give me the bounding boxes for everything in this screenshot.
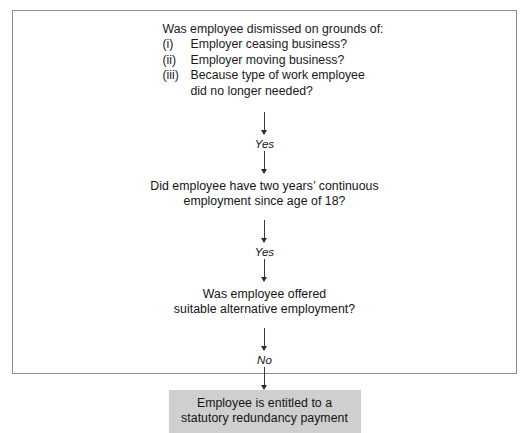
result-line-1: Employee is entitled to a [173,396,357,411]
flowchart-stack: Was employee dismissed on grounds of: (i… [13,11,516,373]
arrow-down-icon [260,328,269,351]
arrow-down-icon [260,112,269,135]
arrow-down-icon [260,151,269,174]
question-node-2: Did employee have two years’ continuous … [150,179,378,210]
result-line-2: statutory redundancy payment [173,411,357,426]
question-3-line-1: Was employee offered [174,287,355,302]
question-1-list: (i) Employer ceasing business? (ii) Empl… [163,37,399,99]
question-2-line-1: Did employee have two years’ continuous [150,179,378,194]
flowchart-frame: Was employee dismissed on grounds of: (i… [12,10,517,374]
result-node: Employee is entitled to a statutory redu… [169,390,361,433]
connector-1-label: Yes [255,135,274,151]
connector-2: Yes [245,220,285,282]
arrow-down-icon [260,220,269,243]
question-node-1: Was employee dismissed on grounds of: (i… [163,22,399,99]
list-item: (ii) Employer moving business? [163,53,399,68]
arrow-down-icon [260,367,269,390]
arrow-down-icon [260,259,269,282]
list-item-text: Employer moving business? [191,53,399,68]
list-item-text-continuation: did no longer needed? [191,84,399,99]
list-marker: (ii) [163,53,189,68]
question-1-lead: Was employee dismissed on grounds of: [163,22,399,37]
list-marker: (i) [163,37,189,52]
question-3-line-2: suitable alternative employment? [174,302,355,317]
list-marker: (iii) [163,68,189,83]
question-2-line-2: employment since age of 18? [150,194,378,209]
connector-1: Yes [245,112,285,174]
connector-3-label: No [257,351,272,367]
list-item-text: Because type of work employee [191,68,399,83]
question-node-3: Was employee offered suitable alternativ… [174,287,355,318]
list-item: (i) Employer ceasing business? [163,37,399,52]
connector-2-label: Yes [255,243,274,259]
connector-3: No [245,328,285,390]
list-item: (iii) Because type of work employee did … [163,68,399,99]
list-item-text: Employer ceasing business? [191,37,399,52]
